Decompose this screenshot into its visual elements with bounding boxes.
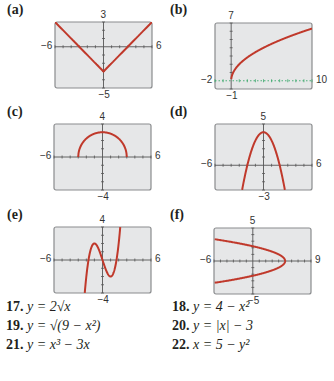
- graph-screen: [214, 123, 313, 191]
- panel-label: (f): [170, 207, 184, 223]
- x-max-label: 6: [156, 40, 162, 51]
- exercise-20: 20. y = |x| − 3: [172, 316, 253, 335]
- panel-label: (e): [7, 207, 23, 223]
- graph-screen: [214, 22, 313, 90]
- panel-label: (c): [7, 104, 23, 120]
- y-min-label: −5: [99, 89, 110, 100]
- y-max-label: 5: [250, 215, 256, 226]
- y-min-label: −3: [259, 191, 270, 202]
- x-min-label: −6: [40, 253, 51, 264]
- exercise-17: 17. y = 2√x: [6, 297, 71, 316]
- graph-screen: [213, 227, 312, 295]
- x-min-label: −6: [40, 150, 51, 161]
- x-min-label: −6: [201, 158, 212, 169]
- exercise-equation: y = √(9 − x²): [27, 318, 101, 333]
- exercise-18: 18. y = 4 − x²: [172, 297, 250, 316]
- y-max-label: 5: [261, 111, 267, 122]
- x-max-label: 6: [155, 150, 161, 161]
- exercise-19: 19. y = √(9 − x²): [6, 316, 101, 335]
- x-max-label: 6: [155, 253, 161, 264]
- panel-label: (d): [170, 104, 187, 120]
- y-min-label: −4: [98, 191, 109, 202]
- exercise-number: 22.: [172, 337, 190, 352]
- panel-label: (b): [170, 2, 187, 18]
- exercise-number: 18.: [172, 299, 190, 314]
- x-min-label: −2: [201, 74, 212, 85]
- y-min-label: −4: [98, 294, 109, 305]
- exercise-number: 17.: [6, 299, 24, 314]
- x-min-label: −6: [200, 254, 211, 265]
- exercise-21: 21. y = x³ − 3x: [6, 335, 90, 354]
- exercise-equation: y = x³ − 3x: [27, 337, 90, 352]
- exercise-equation: x = 5 − y²: [193, 337, 250, 352]
- y-max-label: 4: [100, 111, 106, 122]
- graph-screen: [54, 21, 153, 89]
- panel-label: (a): [7, 2, 23, 18]
- exercise-number: 19.: [6, 318, 24, 333]
- exercise-22: 22. x = 5 − y²: [172, 335, 250, 354]
- x-max-label: 9: [315, 254, 321, 265]
- graph-screen: [53, 123, 152, 191]
- exercise-number: 20.: [172, 318, 190, 333]
- x-max-label: 6: [316, 158, 322, 169]
- graph-screen: [53, 226, 152, 294]
- y-max-label: 7: [228, 10, 234, 21]
- exercise-number: 21.: [6, 337, 24, 352]
- exercise-equation: y = |x| − 3: [193, 318, 253, 333]
- x-min-label: −6: [41, 40, 52, 51]
- x-max-label: 10: [316, 74, 327, 85]
- y-min-label: −1: [226, 90, 237, 101]
- y-max-label: 3: [101, 9, 107, 20]
- exercise-equation: y = 2√x: [27, 299, 71, 314]
- exercise-equation: y = 4 − x²: [193, 299, 250, 314]
- y-max-label: 4: [100, 214, 106, 225]
